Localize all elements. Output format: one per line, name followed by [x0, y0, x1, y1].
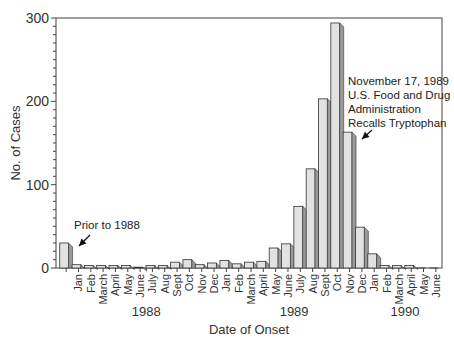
year-label: 1990 [391, 304, 420, 319]
y-tick-label: 100 [26, 177, 50, 193]
annotation-recall-line4: Recalls Tryptophan [348, 116, 450, 130]
x-tick-label: Oct [331, 274, 343, 291]
x-tick-label: July [146, 274, 158, 294]
x-tick-label: May [270, 274, 282, 295]
bar [355, 227, 364, 268]
bar [60, 243, 69, 268]
x-tick-label: Sept [319, 274, 331, 297]
bar [380, 266, 389, 269]
y-tick-label: 200 [26, 93, 50, 109]
x-tick-label: Dec [356, 274, 368, 294]
x-tick-label: June [430, 274, 442, 298]
bar [97, 266, 106, 269]
bar [368, 254, 377, 268]
annotation-recall-line1: November 17, 1989 [348, 74, 450, 88]
x-tick-label: Jan [72, 274, 84, 292]
x-tick-label: Nov [344, 274, 356, 294]
bar [282, 244, 291, 268]
x-tick-label: Dec [208, 274, 220, 294]
bar [257, 261, 266, 268]
x-tick-label: March [245, 274, 257, 305]
bar [405, 266, 414, 269]
bar [294, 206, 303, 268]
bar [84, 266, 93, 269]
annotation-prior: Prior to 1988 [74, 218, 140, 232]
x-tick-label: Oct [183, 274, 195, 291]
year-label: 1988 [132, 304, 161, 319]
x-tick-label: March [393, 274, 405, 305]
bar [183, 260, 192, 268]
bar [245, 262, 254, 268]
bar [232, 264, 241, 268]
x-tick-label: Feb [85, 274, 97, 293]
bar [208, 263, 217, 268]
y-tick-label: 300 [26, 10, 50, 26]
annotation-recall-line2: U.S. Food and Drug [348, 88, 450, 102]
bar [269, 248, 278, 268]
bar [109, 266, 118, 269]
x-axis-label: Date of Onset [209, 322, 290, 337]
x-tick-label: June [134, 274, 146, 298]
bar [195, 265, 204, 268]
x-tick-label: Jan [220, 274, 232, 292]
x-tick-label: Aug [307, 274, 319, 294]
bar [392, 266, 401, 269]
x-tick-label: April [257, 274, 269, 296]
annotation-recall-line3: Administration [348, 102, 450, 116]
x-tick-label: Nov [196, 274, 208, 294]
x-tick-label: Aug [159, 274, 171, 294]
bar [331, 23, 340, 268]
x-tick-label: April [405, 274, 417, 296]
y-axis-label: No. of Cases [8, 105, 23, 181]
x-tick-label: Jan [368, 274, 380, 292]
x-tick-label: March [97, 274, 109, 305]
bar [146, 266, 155, 269]
bar-side [69, 243, 73, 268]
x-tick-label: May [418, 274, 430, 295]
x-tick-label: Feb [233, 274, 245, 293]
year-label: 1989 [280, 304, 309, 319]
bar [306, 169, 315, 268]
x-tick-label: Sept [171, 274, 183, 297]
bar [220, 261, 229, 269]
bar [121, 266, 130, 269]
x-tick-label: June [282, 274, 294, 298]
bar [72, 265, 81, 268]
x-tick-label: May [122, 274, 134, 295]
x-tick-label: July [294, 274, 306, 294]
annotation-recall: November 17, 1989 U.S. Food and Drug Adm… [348, 74, 450, 130]
bar [171, 262, 180, 268]
bar-chart: 0100200300No. of CasesJanFebMarchAprilMa… [0, 0, 454, 347]
bar [158, 266, 167, 269]
bar [134, 267, 143, 268]
x-tick-label: Feb [381, 274, 393, 293]
x-tick-label: April [109, 274, 121, 296]
y-tick-label: 0 [41, 260, 49, 276]
bar [343, 132, 352, 268]
bar [318, 99, 327, 268]
